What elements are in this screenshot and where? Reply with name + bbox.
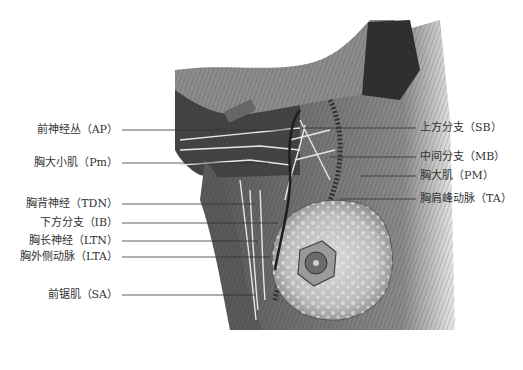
leader-lines [0, 0, 523, 370]
